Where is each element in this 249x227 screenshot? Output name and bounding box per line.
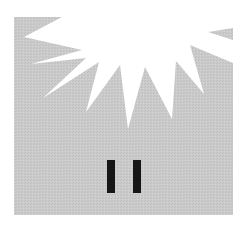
pause-bar-right (133, 160, 141, 193)
illustration (0, 0, 249, 227)
pause-bar-left (107, 160, 115, 193)
illustration-canvas: Pause symbol beneath a white starburst o… (0, 0, 249, 227)
